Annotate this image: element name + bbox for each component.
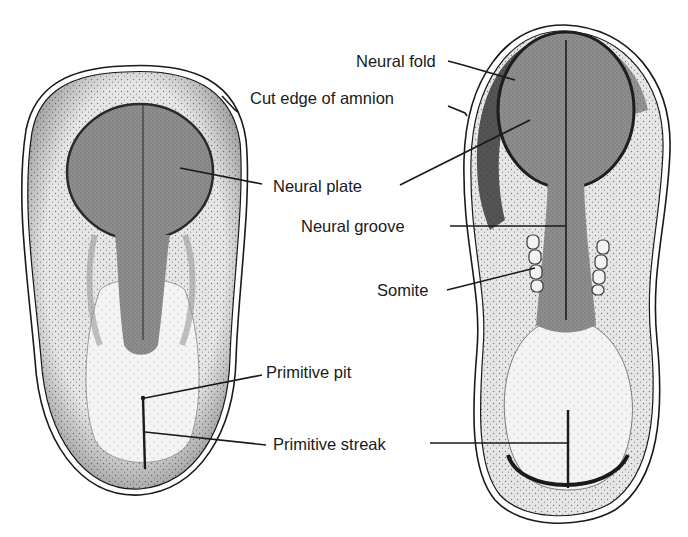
embryo-neural-development-diagram: Neural fold Cut edge of amnion Neural pl… xyxy=(0,0,688,537)
left-neural-plate xyxy=(67,104,213,240)
left-embryo xyxy=(22,66,248,496)
label-neural-groove: Neural groove xyxy=(301,217,405,235)
label-primitive-streak: Primitive streak xyxy=(273,435,387,453)
labels: Neural fold Cut edge of amnion Neural pl… xyxy=(250,52,436,453)
label-cut-edge-of-amnion: Cut edge of amnion xyxy=(250,89,394,107)
label-neural-plate: Neural plate xyxy=(273,177,362,195)
label-primitive-pit: Primitive pit xyxy=(266,363,352,381)
label-neural-fold: Neural fold xyxy=(356,52,436,70)
label-somite: Somite xyxy=(377,281,428,299)
right-embryo xyxy=(464,25,670,523)
